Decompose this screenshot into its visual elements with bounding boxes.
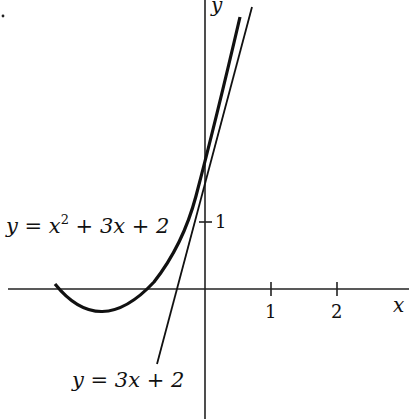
x-tick-label-1: 1 [265,301,276,322]
x-tick-label-2: 2 [331,301,342,322]
parabola-curve [55,17,240,312]
parabola-label: y = x2 + 3x + 2 [5,212,169,238]
tangent-line-label: y = 3x + 2 [71,368,184,392]
y-tick-label-1: 1 [215,211,226,232]
y-axis-label: y [210,0,223,17]
x-axis-label: x [393,293,404,317]
function-plot: 1 2 1 x y y = x2 + 3x + 2 y = 3x + 2 [0,0,409,419]
stray-dot [2,15,5,18]
